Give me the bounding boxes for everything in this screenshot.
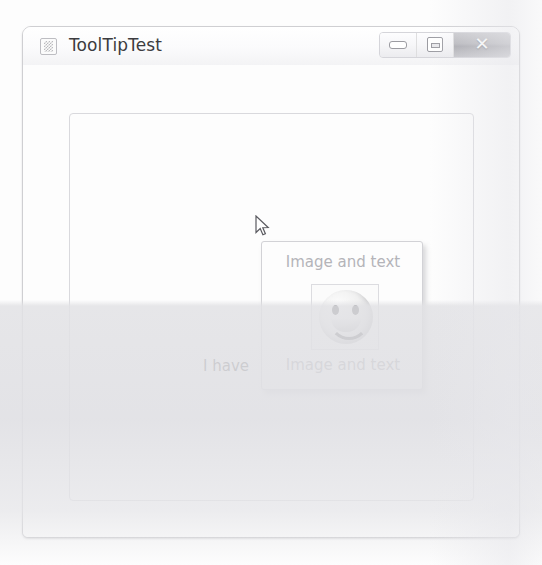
page-canvas: ToolTipTest ✕ I have Image and text [0,0,542,565]
window-controls: ✕ [379,32,511,58]
close-button[interactable]: ✕ [454,33,510,57]
maximize-icon [427,37,443,52]
close-icon: ✕ [454,33,510,55]
tooltip-popup: Image and text Image and text [261,241,423,390]
tooltip-body-text: Image and text [262,356,424,374]
app-icon [40,38,57,55]
window-title: ToolTipTest [69,35,162,55]
minimize-button[interactable] [380,33,417,57]
app-icon-glyph [44,41,53,52]
application-window: ToolTipTest ✕ I have Image and text [22,26,520,538]
tooltip-title-text: Image and text [262,253,424,271]
tooltip-image-frame [311,284,379,350]
title-bar[interactable]: ToolTipTest ✕ [23,27,519,65]
minimize-icon [389,41,407,49]
maximize-button[interactable] [417,33,454,57]
smiley-face-icon [319,290,373,344]
client-area: I have Image and text Image and text [23,65,519,537]
tooltip-host-label[interactable]: I have [203,357,249,375]
